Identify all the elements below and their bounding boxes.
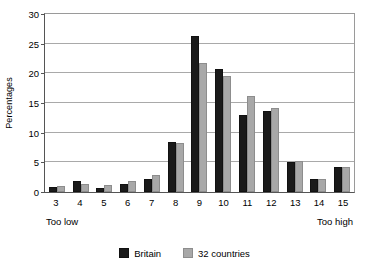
x-axis-tick-label: 12: [259, 195, 283, 211]
x-axis-tick-label: 10: [211, 195, 235, 211]
bar: [199, 63, 207, 192]
bar-group: [283, 14, 307, 192]
bar: [263, 111, 271, 192]
y-axis-tick-label: 30: [28, 9, 39, 20]
bar: [120, 184, 128, 192]
bar-group: [164, 14, 188, 192]
bar-group: [93, 14, 117, 192]
x-axis-tick-label: 3: [44, 195, 68, 211]
bar: [104, 185, 112, 192]
legend-swatch-icon: [119, 248, 129, 258]
bar: [73, 181, 81, 192]
bar-group: [188, 14, 212, 192]
x-axis-tick-label: 7: [140, 195, 164, 211]
bar: [287, 162, 295, 192]
legend-label: Britain: [134, 248, 161, 259]
bar: [223, 76, 231, 192]
bar-group: [211, 14, 235, 192]
x-axis-tick-label: 9: [188, 195, 212, 211]
y-axis-tick-label: 10: [28, 127, 39, 138]
legend-item[interactable]: Britain: [119, 248, 161, 259]
bar: [342, 167, 350, 193]
bar: [128, 181, 136, 192]
y-axis-tick-label: 5: [34, 157, 39, 168]
bar: [310, 179, 318, 192]
y-axis-title: Percentages: [0, 0, 18, 205]
x-axis-tick-label: 14: [307, 195, 331, 211]
x-axis-tick-label: 8: [164, 195, 188, 211]
bar: [295, 161, 303, 192]
bar: [81, 184, 89, 192]
bar-group: [330, 14, 354, 192]
bar: [57, 186, 65, 192]
x-axis-tick-label: 13: [283, 195, 307, 211]
axis-annotation-too-high: Too high: [317, 216, 355, 230]
plot-area: 051015202530: [44, 13, 355, 193]
x-axis-tick-labels: 3456789101112131415: [44, 195, 355, 211]
bar: [215, 69, 223, 192]
bar: [271, 108, 279, 192]
bar: [318, 179, 326, 192]
bar-group: [306, 14, 330, 192]
legend-item[interactable]: 32 countries: [183, 248, 250, 259]
y-axis-tick-label: 25: [28, 38, 39, 49]
bar: [191, 36, 199, 192]
legend-label: 32 countries: [198, 248, 250, 259]
bar-chart-figure: Percentages 051015202530 345678910111213…: [0, 0, 369, 268]
bar-group: [235, 14, 259, 192]
x-axis-tick-label: 6: [116, 195, 140, 211]
chart-legend: Britain32 countries: [0, 244, 369, 262]
y-axis-tick-label: 0: [34, 187, 39, 198]
bar-group: [69, 14, 93, 192]
bar: [144, 179, 152, 192]
bar: [239, 115, 247, 192]
x-axis-tick-label: 15: [331, 195, 355, 211]
bar: [152, 175, 160, 192]
bars-layer: [45, 14, 354, 192]
bar: [49, 187, 57, 192]
bar-group: [140, 14, 164, 192]
x-axis-tick-label: 5: [92, 195, 116, 211]
axis-annotation-too-low: Too low: [44, 216, 78, 230]
bar: [247, 96, 255, 192]
bar-group: [116, 14, 140, 192]
bar-group: [259, 14, 283, 192]
y-axis-tick-label: 15: [28, 98, 39, 109]
x-axis-tick-label: 11: [235, 195, 259, 211]
bar: [168, 142, 176, 192]
y-axis-title-label: Percentages: [4, 77, 14, 129]
x-axis-tick-label: 4: [68, 195, 92, 211]
legend-swatch-icon: [183, 248, 193, 258]
bar: [96, 188, 104, 192]
bar-group: [45, 14, 69, 192]
y-axis-tick-label: 20: [28, 68, 39, 79]
bar: [334, 167, 342, 192]
axis-endpoint-annotations: Too low Too high: [44, 216, 355, 230]
bar: [176, 143, 184, 192]
y-axis-tick-mark: [41, 192, 45, 193]
